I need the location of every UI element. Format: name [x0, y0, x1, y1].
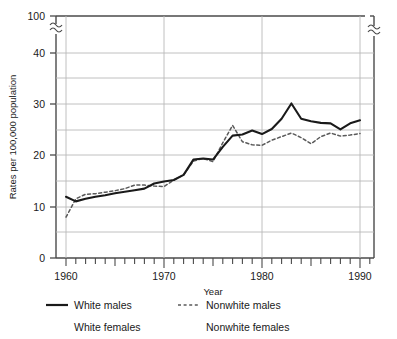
y-tick-label-100: 100: [27, 10, 45, 22]
y-tick-label-20: 20: [33, 149, 45, 161]
legend-label-white-males: White males: [74, 299, 132, 311]
x-tick-label-1980: 1980: [250, 270, 274, 282]
chart-figure: 100 40 30 20 10 0 Rates per 100,000 popu…: [0, 0, 397, 339]
chart-background: [0, 0, 397, 339]
legend-label-white-females: White females: [74, 321, 141, 333]
x-tick-label-1960: 1960: [54, 270, 78, 282]
x-tick-label-1970: 1970: [152, 270, 176, 282]
y-tick-label-0: 0: [39, 252, 45, 264]
legend-label-nonwhite-females: Nonwhite females: [206, 321, 289, 333]
y-tick-label-30: 30: [33, 98, 45, 110]
y-tick-label-10: 10: [33, 201, 45, 213]
x-tick-label-1990: 1990: [348, 270, 372, 282]
mortality-rate-line-chart: 100 40 30 20 10 0 Rates per 100,000 popu…: [0, 0, 397, 339]
x-axis-title: Year: [203, 286, 222, 297]
y-tick-label-40: 40: [33, 47, 45, 59]
legend-label-nonwhite-males: Nonwhite males: [206, 299, 281, 311]
y-axis-title: Rates per 100,000 population: [7, 75, 18, 200]
